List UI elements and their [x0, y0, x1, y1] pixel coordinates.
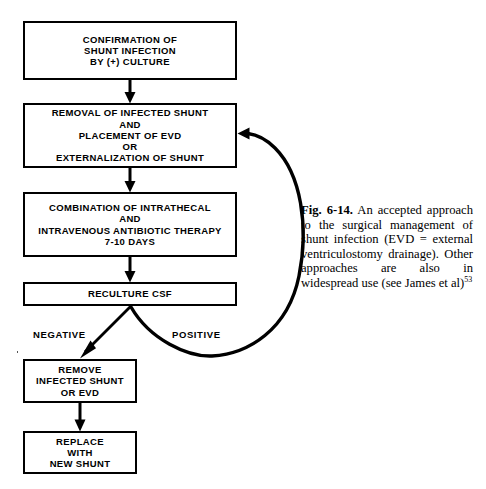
- edge-removal-to-antibiotics: [125, 168, 136, 193]
- figure-reference-superscript: 53: [464, 275, 472, 284]
- figure-page: CONFIRMATION OF SHUNT INFECTION BY (+) C…: [0, 0, 486, 489]
- figure-caption: Fig. 6-14. An accepted approach to the s…: [301, 203, 473, 291]
- flow-node-antibiotics: COMBINATION OF INTRATHECAL AND INTRAVENO…: [23, 192, 237, 257]
- flow-node-replace-label: REPLACE WITH NEW SHUNT: [47, 436, 114, 470]
- flow-node-reculture-label: RECULTURE CSF: [85, 288, 175, 299]
- edge-remove-to-replace: [75, 403, 86, 432]
- figure-number-label: Fig. 6-14.: [301, 203, 353, 217]
- scan-artifact-speck: [17, 351, 18, 353]
- flow-node-reculture: RECULTURE CSF: [23, 282, 237, 306]
- flow-node-removal-label: REMOVAL OF INFECTED SHUNT AND PLACEMENT …: [49, 107, 212, 163]
- flow-node-removal: REMOVAL OF INFECTED SHUNT AND PLACEMENT …: [23, 103, 237, 168]
- flow-node-replace: REPLACE WITH NEW SHUNT: [23, 431, 137, 474]
- edge-confirmation-to-removal: [125, 80, 136, 104]
- flow-node-remove-label: REMOVE INFECTED SHUNT OR EVD: [33, 364, 127, 398]
- flow-node-remove: REMOVE INFECTED SHUNT OR EVD: [23, 359, 137, 403]
- edge-reculture-negative-to-remove: [80, 306, 131, 359]
- flow-node-antibiotics-label: COMBINATION OF INTRATHECAL AND INTRAVENO…: [35, 202, 225, 247]
- flow-node-confirmation-label: CONFIRMATION OF SHUNT INFECTION BY (+) C…: [80, 34, 180, 68]
- branch-label-negative: NEGATIVE: [33, 329, 86, 340]
- branch-label-positive: POSITIVE: [172, 329, 221, 340]
- edge-antibiotics-to-reculture: [125, 257, 136, 283]
- flow-node-confirmation: CONFIRMATION OF SHUNT INFECTION BY (+) C…: [23, 21, 237, 80]
